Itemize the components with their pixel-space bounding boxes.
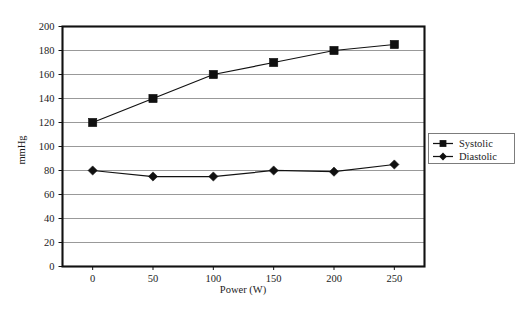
y-tick-label-160: 160 xyxy=(39,69,55,80)
data-point-systolic-100 xyxy=(209,70,217,78)
x-tick-label-150: 150 xyxy=(266,273,282,284)
y-tick-label-0: 0 xyxy=(49,261,54,272)
data-point-systolic-200 xyxy=(330,46,338,54)
y-tick-label-100: 100 xyxy=(39,141,55,152)
x-tick-label-100: 100 xyxy=(205,273,221,284)
y-tick-label-200: 200 xyxy=(39,21,55,32)
chart-legend: SystolicDiastolic xyxy=(429,134,515,164)
x-tick-label-50: 50 xyxy=(148,273,159,284)
y-tick-label-60: 60 xyxy=(44,189,55,200)
blood-pressure-line-chart: 020406080100120140160180200 050100150200… xyxy=(0,0,519,313)
y-tick-label-180: 180 xyxy=(39,45,55,56)
legend-marker-systolic xyxy=(440,140,447,147)
y-tick-label-120: 120 xyxy=(39,117,55,128)
y-tick-label-40: 40 xyxy=(44,213,55,224)
x-tick-label-0: 0 xyxy=(90,273,95,284)
y-axis-title: mmHg xyxy=(16,135,27,165)
data-point-systolic-150 xyxy=(270,58,278,66)
data-point-systolic-50 xyxy=(149,94,157,102)
y-tick-label-20: 20 xyxy=(44,237,55,248)
x-tick-label-250: 250 xyxy=(386,273,402,284)
x-tick-label-200: 200 xyxy=(326,273,342,284)
data-point-systolic-0 xyxy=(89,118,97,126)
y-tick-label-80: 80 xyxy=(44,165,55,176)
chart-figure: 020406080100120140160180200 050100150200… xyxy=(0,0,519,313)
y-tick-label-140: 140 xyxy=(39,93,55,104)
data-point-systolic-250 xyxy=(390,40,398,48)
x-axis-title: Power (W) xyxy=(220,284,267,296)
legend-label-systolic: Systolic xyxy=(459,138,493,149)
legend-label-diastolic: Diastolic xyxy=(459,151,497,162)
